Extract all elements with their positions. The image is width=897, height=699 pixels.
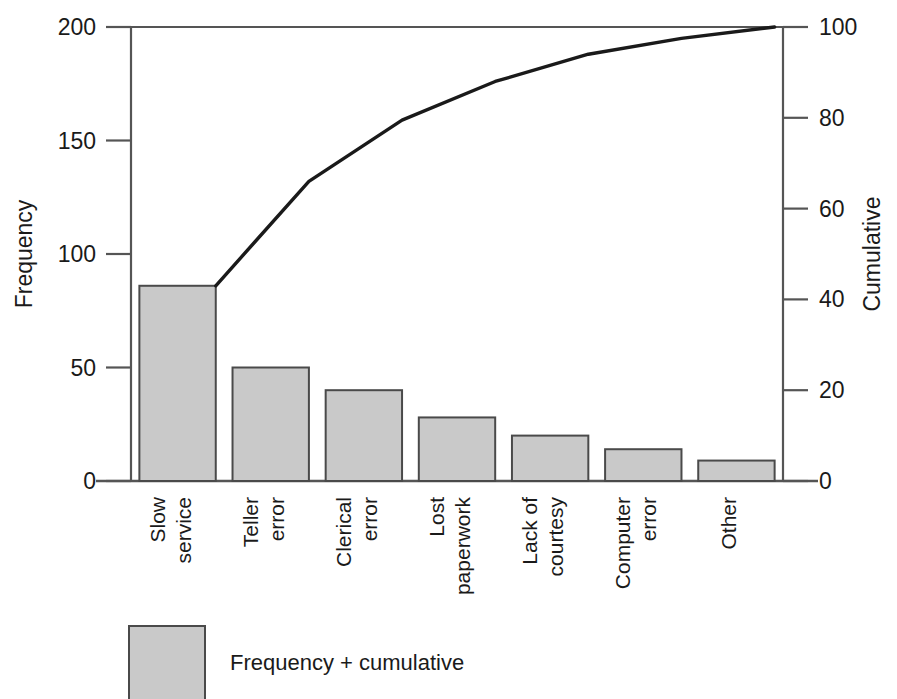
category-label-lack-of-courtesy: courtesy (544, 497, 567, 577)
bar-lost-paperwork (419, 417, 495, 481)
bar-slow-service (139, 286, 215, 481)
category-label-computer-error: error (637, 497, 660, 541)
bar-other (698, 461, 774, 481)
cumulative-line-group (216, 27, 775, 286)
category-label-slow-service: service (172, 497, 195, 564)
category-label-slow-service: Slow (146, 496, 169, 542)
left-axis-ticks (106, 27, 131, 481)
left-tick-label-100: 100 (58, 241, 96, 267)
pareto-chart: 0 50 100 150 200 0 20 40 60 80 100 Frequ… (0, 0, 897, 699)
left-tick-label-150: 150 (58, 128, 96, 154)
left-tick-label-50: 50 (70, 355, 96, 381)
right-tick-label-20: 20 (819, 377, 845, 403)
category-label-other: Other (717, 497, 740, 550)
category-label-clerical-error: Clerical (332, 497, 355, 567)
y2-axis-title: Cumulative (859, 196, 885, 311)
bar-teller-error (233, 368, 309, 482)
legend-swatch-frequency (129, 626, 205, 699)
chart-canvas: 0 50 100 150 200 0 20 40 60 80 100 Frequ… (0, 0, 897, 699)
bar-clerical-error (326, 390, 402, 481)
bars-group (139, 286, 774, 481)
left-axis-tick-labels: 0 50 100 150 200 (58, 14, 96, 494)
cumulative-line (216, 27, 775, 286)
right-tick-label-100: 100 (819, 14, 857, 40)
bar-computer-error (605, 449, 681, 481)
legend: Frequency + cumulative (129, 626, 464, 699)
category-label-lost-paperwork: paperwork (451, 497, 474, 596)
right-tick-label-0: 0 (819, 468, 832, 494)
right-tick-label-80: 80 (819, 105, 845, 131)
category-label-teller-error: error (265, 497, 288, 541)
category-label-lost-paperwork: Lost (425, 497, 448, 537)
category-label-lack-of-courtesy: Lack of (518, 497, 541, 565)
right-tick-label-40: 40 (819, 286, 845, 312)
right-axis-ticks (783, 27, 808, 481)
category-label-computer-error: Computer (611, 497, 634, 589)
left-tick-label-200: 200 (58, 14, 96, 40)
legend-label-frequency: Frequency + cumulative (230, 650, 464, 675)
category-label-clerical-error: error (358, 497, 381, 541)
right-tick-label-60: 60 (819, 196, 845, 222)
right-axis-tick-labels: 0 20 40 60 80 100 (819, 14, 857, 494)
bar-lack-of-courtesy (512, 436, 588, 481)
category-label-teller-error: Teller (239, 497, 262, 547)
category-labels-group: SlowserviceTellererrorClericalerrorLostp… (146, 496, 741, 595)
y-axis-title: Frequency (11, 199, 37, 308)
left-tick-label-0: 0 (83, 468, 96, 494)
